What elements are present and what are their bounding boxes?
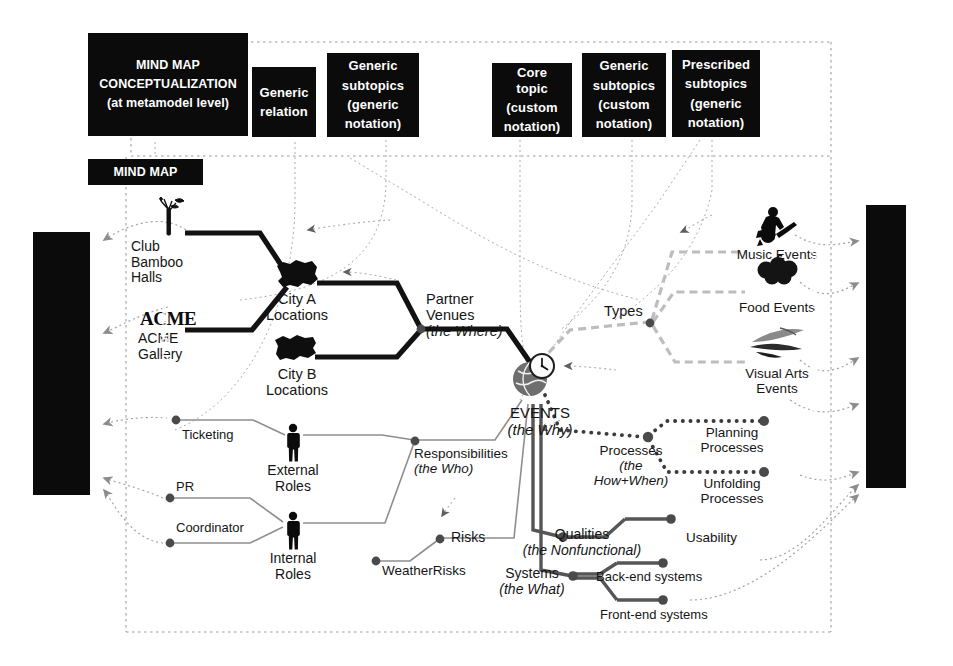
node-types: Types (604, 303, 654, 319)
node-partner-venues: Partner Venues (the Where) (426, 291, 526, 340)
node-club-bamboo-halls: Club Bamboo Halls (131, 239, 203, 286)
node-coordinator: Coordinator (176, 521, 266, 536)
dot-pr (166, 494, 175, 503)
dot-weatherrisks (372, 557, 381, 566)
legend-item-generic-relation: Generic relation (252, 67, 316, 137)
node-processes: Processes (the How+When) (576, 443, 686, 488)
legend-line: Generic (255, 83, 312, 102)
legend-line: Generic (589, 56, 659, 75)
dot-usability (666, 514, 676, 524)
legend-main-line3: (at metamodel level) (95, 94, 241, 113)
legend-line: Generic (338, 56, 408, 75)
node-events-core: EVENTS (the Why) (494, 405, 586, 439)
right-bar-line1: Hyperlinks to complementary conceptual (808, 234, 823, 459)
legend-item-prescribed-subtopics-generic: Prescribed subtopics (generic notation) (672, 50, 760, 137)
person-silhouette-icon-internal (283, 511, 303, 553)
node-unfolding-processes: Unfolding Processes (684, 476, 780, 506)
node-ticketing: Ticketing (182, 428, 258, 443)
hyperlink-arrows-right (690, 235, 858, 600)
node-weather-risks: WeatherRisks (382, 563, 482, 578)
legend-item-generic-subtopics-generic: Generic subtopics (generic notation) (327, 53, 419, 137)
dot-processes (643, 432, 653, 442)
dot-backend (658, 558, 668, 568)
legend-line: subtopics (338, 76, 408, 95)
city-a-map-icon (274, 258, 320, 290)
node-backend-systems: Back-end systems (596, 570, 720, 585)
legend-line: notation) (589, 114, 659, 133)
dot-ticketing (172, 416, 181, 425)
node-pr: PR (176, 480, 216, 495)
node-external-roles: External Roles (253, 463, 333, 494)
node-responsibilities: Responsibilities (the Who) (414, 446, 524, 476)
dot-risks (436, 535, 445, 544)
bamboo-plant-icon (152, 196, 186, 236)
legend-line: subtopics (589, 76, 659, 95)
legend-model-label: MIND MAP (88, 159, 203, 185)
diagram-canvas: MIND MAP CONCEPTUALIZATION (at metamodel… (0, 0, 953, 666)
node-frontend-systems: Front-end systems (600, 608, 724, 623)
legend-item-core-topic-custom: Core topic (custom notation) (492, 63, 572, 137)
node-risks: Risks (451, 530, 501, 546)
legend-main-label: MIND MAP CONCEPTUALIZATION (at metamodel… (88, 33, 248, 136)
dot-coordinator (166, 539, 175, 548)
legend-line: (generic (338, 95, 408, 114)
left-bar-line1: Hyperlinks to complementary (157, 283, 172, 444)
legend-main-line1: MIND MAP (95, 56, 241, 75)
legend-line: (generic (678, 94, 754, 113)
legend-model-text: MIND MAP (110, 163, 182, 182)
dot-responsibilities (411, 437, 420, 446)
legend-line: subtopics (678, 74, 754, 93)
legend-line: notation) (338, 114, 408, 133)
legend-line: notation) (678, 113, 754, 132)
node-qualities: Qualities (the Nonfunctional) (496, 527, 668, 558)
legend-line: (custom (589, 95, 659, 114)
legend-line: notation) (496, 117, 568, 136)
node-planning-processes: Planning Processes (684, 425, 780, 455)
legend-line: (custom (496, 98, 568, 117)
person-silhouette-icon-external (283, 423, 303, 465)
legend-main-line2: CONCEPTUALIZATION (95, 75, 241, 94)
dot-frontend (658, 595, 668, 605)
node-internal-roles: Internal Roles (253, 551, 333, 582)
dot-types (646, 319, 655, 328)
node-city-a-locations: City A Locations (251, 291, 343, 323)
legend-line: relation (255, 102, 312, 121)
guitarist-icon (752, 205, 800, 247)
dot-partner-venues (417, 325, 426, 334)
globe-clock-icon (508, 353, 560, 399)
legend-line: Core topic (496, 63, 568, 98)
legend-item-generic-subtopics-custom: Generic subtopics (custom notation) (582, 53, 666, 137)
legend-line: Prescribed (678, 55, 754, 74)
right-hyperlinks-bar: Hyperlinks to complementary conceptual m… (866, 205, 906, 488)
left-hyperlinks-bar: Hyperlinks to complementary conceptual m… (33, 232, 90, 495)
legend-tielines (155, 140, 712, 430)
node-systems: Systems (the What) (489, 566, 575, 597)
node-city-b-locations: City B Locations (251, 366, 343, 398)
city-b-map-icon (273, 333, 319, 363)
node-usability: Usability (686, 530, 756, 545)
